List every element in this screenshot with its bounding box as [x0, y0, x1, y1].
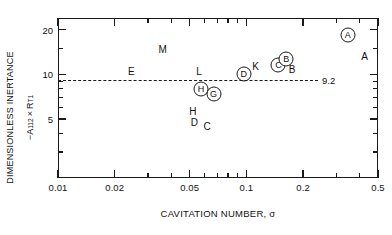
x-tick-minor-top	[217, 18, 218, 23]
y-tick-major-right	[370, 74, 378, 75]
x-tick-major-top	[377, 18, 378, 26]
y-tick-major-right	[370, 118, 378, 119]
x-tick-minor	[336, 173, 337, 178]
y-tick-minor	[58, 88, 63, 89]
y-tick-minor-right	[373, 81, 378, 82]
data-point-b-12: B	[289, 65, 296, 75]
x-tick-label: 0.5	[371, 182, 385, 193]
x-tick-major-top	[302, 18, 303, 26]
x-tick-minor	[217, 173, 218, 178]
x-tick-minor	[147, 173, 148, 178]
x-tick-major	[302, 170, 303, 178]
x-tick-minor	[237, 173, 238, 178]
x-tick-minor-top	[147, 18, 148, 23]
data-point-h-5: H	[189, 107, 196, 117]
x-axis-title: CAVITATION NUMBER, σ	[58, 208, 378, 219]
reference-line-label: 9.2	[322, 74, 335, 85]
data-point-l-2: L	[196, 67, 202, 77]
data-point-k-9: K	[252, 62, 259, 72]
y-tick-minor-right	[373, 48, 378, 49]
x-tick-label: 0.1	[240, 182, 254, 193]
y-tick-major-right	[370, 29, 378, 30]
y-tick-minor	[58, 81, 63, 82]
x-tick-minor	[171, 173, 172, 178]
x-tick-minor-top	[237, 18, 238, 23]
y-tick-major	[58, 74, 66, 75]
data-point-a-14: A	[361, 52, 368, 62]
x-tick-minor-top	[204, 18, 205, 23]
x-tick-major-top	[246, 18, 247, 26]
y-axis-R-subscript: T1	[27, 95, 34, 103]
x-tick-label: 0.2	[296, 182, 310, 193]
data-point-a-13: A	[340, 28, 355, 43]
data-point-g-4: G	[206, 86, 221, 101]
x-tick-major-top	[57, 18, 58, 26]
data-point-c-7: C	[204, 122, 211, 132]
y-axis-A-term: −A	[25, 129, 35, 140]
x-tick-minor	[359, 173, 360, 178]
data-point-e-1: E	[128, 67, 135, 77]
y-axis-R-term: R	[25, 103, 35, 110]
x-tick-major	[377, 170, 378, 178]
y-tick-minor	[58, 151, 63, 152]
x-tick-minor	[204, 173, 205, 178]
x-tick-minor-top	[359, 18, 360, 23]
y-axis-title-line2: −A112×RT1	[20, 0, 40, 235]
x-tick-minor-top	[171, 18, 172, 23]
x-tick-minor-top	[227, 18, 228, 23]
x-tick-label: 0.01	[49, 182, 68, 193]
y-tick-minor-right	[373, 151, 378, 152]
x-tick-major	[189, 170, 190, 178]
y-tick-minor	[58, 133, 63, 134]
x-tick-label: 0.02	[105, 182, 124, 193]
y-tick-major	[58, 29, 66, 30]
y-tick-major	[58, 118, 66, 119]
x-tick-minor-top	[336, 18, 337, 23]
y-axis-A-subscript: 112	[27, 118, 34, 129]
data-point-m-0: M	[159, 45, 167, 55]
cavitation-inertance-chart: 0.010.020.050.10.20.520105MELHGHDCDKCBBA…	[0, 0, 392, 235]
y-tick-minor-right	[373, 107, 378, 108]
y-axis-title-line1: DIMENSIONLESS INERTANCE	[0, 0, 20, 235]
y-tick-minor	[58, 48, 63, 49]
y-axis-times-symbol: ×	[25, 109, 35, 118]
x-tick-major	[246, 170, 247, 178]
y-tick-minor	[58, 107, 63, 108]
reference-line	[58, 80, 318, 81]
x-tick-minor	[227, 173, 228, 178]
y-tick-minor-right	[373, 97, 378, 98]
y-tick-minor-right	[373, 88, 378, 89]
data-point-d-6: D	[191, 118, 198, 128]
x-tick-major	[57, 170, 58, 178]
x-tick-label: 0.05	[180, 182, 199, 193]
x-tick-major	[114, 170, 115, 178]
x-tick-major-top	[189, 18, 190, 26]
x-tick-major-top	[114, 18, 115, 26]
y-tick-minor-right	[373, 133, 378, 134]
y-tick-minor	[58, 97, 63, 98]
